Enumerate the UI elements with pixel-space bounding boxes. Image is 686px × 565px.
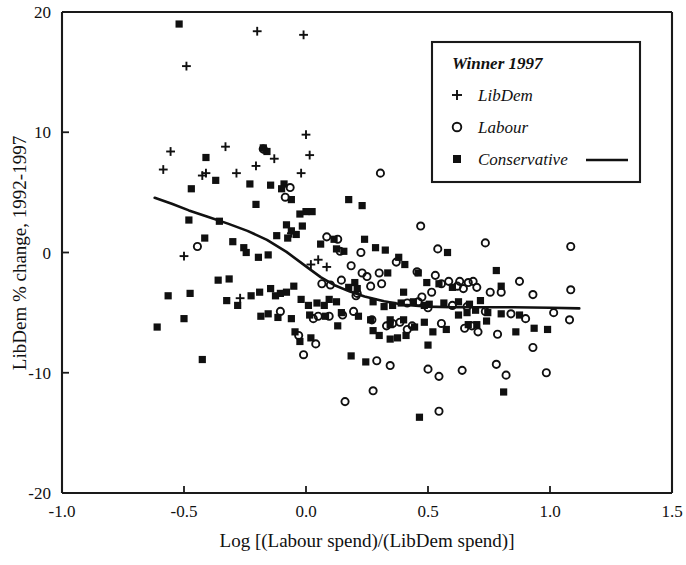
y-tick-label: 10: [34, 123, 51, 142]
data-point-square: [278, 185, 285, 192]
data-point-square: [199, 356, 206, 363]
data-point-square: [309, 208, 316, 215]
data-point-square: [348, 352, 355, 359]
data-point-square: [223, 297, 230, 304]
y-axis-title: LibDem % change, 1992-1997: [9, 136, 30, 370]
x-axis-title: Log [(Labour spend)/(LibDem spend)]: [220, 530, 515, 552]
data-point-square: [201, 234, 208, 241]
data-point-square: [180, 315, 187, 322]
data-point-square: [531, 325, 538, 332]
data-point-square: [290, 283, 297, 290]
data-point-square: [500, 388, 507, 395]
data-point-square: [382, 246, 389, 253]
data-point-square: [384, 269, 391, 276]
data-point-square: [334, 322, 341, 329]
data-point-square: [361, 236, 368, 243]
data-point-square: [154, 323, 161, 330]
y-tick-label: 0: [43, 244, 52, 263]
legend-label-labour: Labour: [477, 118, 528, 137]
data-point-square: [284, 234, 291, 241]
data-point-square: [345, 196, 352, 203]
data-point-square: [283, 289, 290, 296]
data-point-square: [256, 289, 263, 296]
data-point-square: [187, 290, 194, 297]
scatter-chart-figure: 20100-10-20 -1.0-0.50.00.51.01.5 Winner …: [0, 0, 686, 565]
data-point-square: [248, 292, 255, 299]
data-point-square: [305, 302, 312, 309]
data-point-square: [333, 298, 340, 305]
x-tick-label: 0.5: [417, 502, 438, 521]
y-tick-label: 20: [34, 3, 51, 22]
legend: Winner 1997 LibDem Labour Conservative: [432, 42, 640, 182]
data-point-square: [380, 303, 387, 310]
data-point-square: [246, 180, 253, 187]
data-point-square: [273, 232, 280, 239]
data-point-square: [188, 185, 195, 192]
data-point-square: [376, 332, 383, 339]
data-point-square: [296, 210, 303, 217]
data-point-square: [416, 414, 423, 421]
y-tick-label: -10: [28, 364, 51, 383]
square-marker-icon: [453, 155, 461, 163]
data-point-square: [483, 317, 490, 324]
data-point-square: [477, 297, 484, 304]
data-point-square: [359, 202, 366, 209]
data-point-square: [252, 201, 259, 208]
data-point-square: [400, 289, 407, 296]
data-point-square: [372, 244, 379, 251]
data-point-square: [498, 310, 505, 317]
data-point-square: [234, 302, 241, 309]
data-point-square: [226, 275, 233, 282]
data-point-square: [394, 334, 401, 341]
data-point-square: [267, 182, 274, 189]
data-point-square: [176, 20, 183, 27]
data-point-square: [317, 240, 324, 247]
x-tick-label: 0.0: [295, 502, 316, 521]
data-point-square: [326, 296, 333, 303]
data-point-square: [455, 311, 462, 318]
data-point-square: [229, 238, 236, 245]
data-point-square: [313, 299, 320, 306]
data-point-square: [185, 216, 192, 223]
data-point-square: [243, 249, 250, 256]
legend-label-libdem: LibDem: [477, 86, 533, 105]
data-point-square: [212, 177, 219, 184]
data-point-square: [424, 341, 431, 348]
data-point-square: [544, 326, 551, 333]
data-point-square: [255, 254, 262, 261]
legend-label-conservative: Conservative: [478, 150, 568, 169]
data-point-square: [298, 296, 305, 303]
data-point-square: [293, 231, 300, 238]
data-point-square: [299, 222, 306, 229]
data-point-square: [512, 328, 519, 335]
data-point-square: [165, 292, 172, 299]
data-point-square: [387, 335, 394, 342]
data-point-square: [493, 267, 500, 274]
data-point-square: [421, 319, 428, 326]
y-tick-label: -20: [28, 484, 51, 503]
data-point-square: [267, 285, 274, 292]
data-point-square: [429, 328, 436, 335]
data-point-square: [265, 310, 272, 317]
x-tick-label: 1.0: [539, 502, 560, 521]
data-point-square: [362, 358, 369, 365]
data-point-square: [401, 261, 408, 268]
legend-title: Winner 1997: [452, 54, 544, 73]
data-point-square: [265, 251, 272, 258]
data-point-square: [202, 154, 209, 161]
data-point-square: [423, 279, 430, 286]
x-tick-label: -0.5: [171, 502, 198, 521]
data-point-square: [444, 249, 451, 256]
data-point-square: [288, 315, 295, 322]
data-point-square: [215, 277, 222, 284]
x-tick-label: -1.0: [49, 502, 76, 521]
x-tick-label: 1.5: [661, 502, 682, 521]
data-point-square: [257, 313, 264, 320]
data-point-square: [440, 299, 447, 306]
